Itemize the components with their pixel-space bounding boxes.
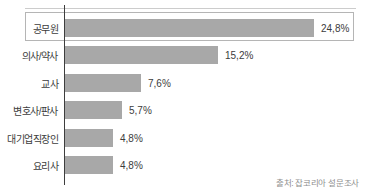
category-label: 교사 <box>0 76 58 91</box>
bar <box>65 156 113 174</box>
value-label: 15,2% <box>225 50 253 61</box>
bar <box>65 46 218 64</box>
category-label: 공무원 <box>0 21 58 36</box>
bar-rows: 공무원24,8%의사/약사15,2%교사7,6%변호사/판사5,7%대기업직장인… <box>0 0 366 196</box>
category-label: 대기업직장인 <box>0 131 58 146</box>
value-label: 24,8% <box>321 23 349 34</box>
bar <box>65 129 113 147</box>
category-label: 변호사/판사 <box>0 103 58 118</box>
bar <box>65 19 314 37</box>
bar <box>65 101 122 119</box>
value-label: 5,7% <box>129 105 152 116</box>
value-label: 4,8% <box>120 133 143 144</box>
bar <box>65 74 141 92</box>
bar-chart: 공무원24,8%의사/약사15,2%교사7,6%변호사/판사5,7%대기업직장인… <box>0 0 366 196</box>
value-label: 4,8% <box>120 160 143 171</box>
category-label: 의사/약사 <box>0 48 58 63</box>
category-label: 요리사 <box>0 158 58 173</box>
value-label: 7,6% <box>148 78 171 89</box>
